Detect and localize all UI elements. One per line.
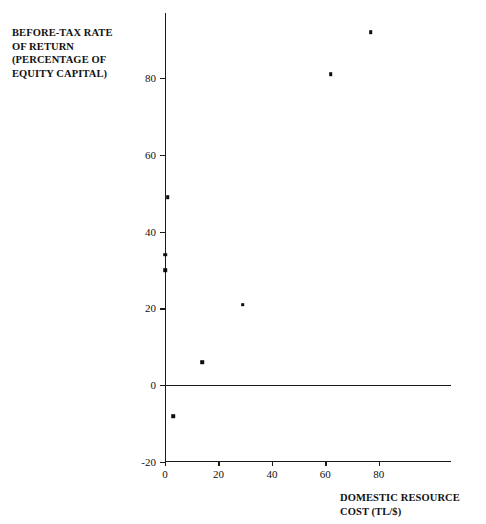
data-point xyxy=(329,73,333,77)
data-point xyxy=(171,414,175,418)
y-tick-mark xyxy=(160,232,165,233)
x-tick-label: 40 xyxy=(266,468,277,480)
data-point xyxy=(369,30,373,34)
y-tick-mark xyxy=(160,385,165,386)
plot-area: -20020406080 020406080 xyxy=(165,13,451,462)
data-point xyxy=(241,303,245,307)
y-tick-label: 60 xyxy=(145,149,156,161)
x-axis-line xyxy=(165,461,451,462)
y-tick-label: 40 xyxy=(145,226,156,238)
scatter-chart: BEFORE-TAX RATE OF RETURN (PERCENTAGE OF… xyxy=(0,0,486,524)
x-tick-mark xyxy=(165,461,166,466)
x-axis-title: DOMESTIC RESOURCE COST (TL/$) xyxy=(340,491,486,518)
data-point xyxy=(163,268,167,272)
x-tick-mark xyxy=(325,461,326,466)
x-tick-label: 0 xyxy=(162,468,168,480)
data-point xyxy=(201,360,205,364)
data-point xyxy=(166,195,170,199)
y-tick-label: 0 xyxy=(151,379,157,391)
y-tick-mark xyxy=(160,78,165,79)
x-tick-label: 60 xyxy=(320,468,331,480)
x-tick-label: 80 xyxy=(373,468,384,480)
y-tick-mark xyxy=(160,155,165,156)
x-tick-label: 20 xyxy=(213,468,224,480)
y-tick-label: 20 xyxy=(145,302,156,314)
data-point xyxy=(163,253,167,257)
x-tick-mark xyxy=(379,461,380,466)
y-axis-title: BEFORE-TAX RATE OF RETURN (PERCENTAGE OF… xyxy=(12,26,148,80)
y-axis-line xyxy=(165,13,166,462)
x-tick-mark xyxy=(218,461,219,466)
x-tick-mark xyxy=(272,461,273,466)
y-tick-label: 80 xyxy=(145,72,156,84)
y-tick-label: -20 xyxy=(141,456,156,468)
y-tick-mark xyxy=(160,308,165,309)
zero-reference-line xyxy=(165,385,451,386)
